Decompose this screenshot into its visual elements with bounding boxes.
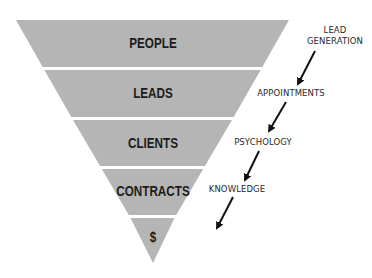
stage-label-clients: CLIENTS — [91, 134, 216, 151]
stage-label-contracts: CONTRACTS — [91, 182, 216, 199]
arrow-icon — [245, 151, 259, 180]
stage-label-leads: LEADS — [91, 84, 216, 101]
arrow-icon — [269, 102, 286, 131]
transition-label-line2: GENERATION — [300, 36, 370, 47]
transition-label-line1: LEAD — [300, 25, 370, 36]
stage-label-money: $ — [91, 228, 216, 245]
transition-label-knowledge: KNOWLEDGE — [206, 184, 268, 195]
stage-label-people: PEOPLE — [91, 34, 216, 51]
transition-label-psychology: PSYCHOLOGY — [230, 137, 296, 148]
arrow-icon — [217, 197, 233, 228]
transition-label-appointments: APPOINTMENTS — [251, 88, 331, 99]
transition-label-lead-generation: LEAD GENERATION — [300, 25, 370, 47]
arrow-icon — [298, 51, 315, 84]
